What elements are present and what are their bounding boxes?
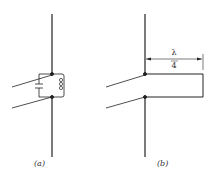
feed-line-upper [12, 75, 52, 87]
feed-line-lower [106, 97, 145, 108]
figure-a [12, 14, 64, 157]
figure-b [106, 14, 203, 157]
figure-b-label: (b) [157, 159, 168, 168]
diagram-drawing [0, 0, 213, 181]
dimension-numerator: λ [168, 48, 180, 57]
feed-line-lower [12, 97, 52, 108]
arrow-left-icon [146, 58, 151, 61]
figure-a-label: (a) [34, 159, 45, 168]
arrow-right-icon [197, 58, 202, 61]
quarter-wave-stub [145, 74, 203, 97]
inductor-icon [59, 78, 62, 89]
antenna-trap-diagram: λ 4 (a) (b) [0, 0, 213, 181]
dimension-denominator: 4 [168, 61, 180, 70]
feed-line-upper [106, 75, 145, 87]
